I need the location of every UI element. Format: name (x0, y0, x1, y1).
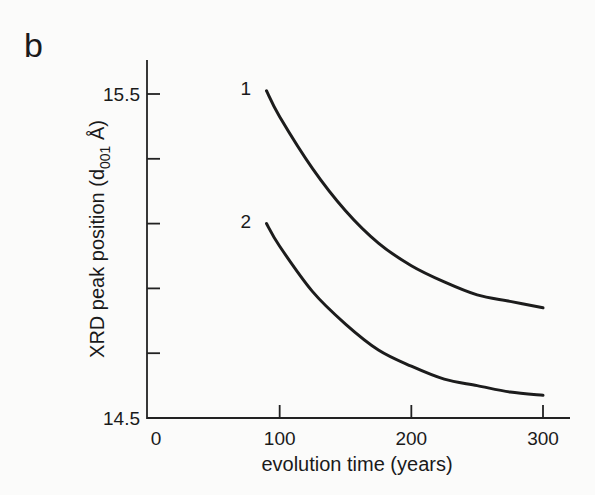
xrd-chart: 14.515.50100200300evolution time (years)… (0, 0, 595, 495)
curve-label-2: 2 (241, 211, 252, 232)
series-group (267, 91, 544, 396)
curve-2 (267, 224, 544, 396)
x-tick-label: 0 (151, 428, 162, 449)
x-tick-label: 300 (527, 428, 559, 449)
y-tick-label: 15.5 (103, 84, 140, 105)
axes (147, 60, 570, 419)
x-tick-label: 200 (395, 428, 427, 449)
curve-label-1: 1 (241, 78, 252, 99)
y-tick-label: 14.5 (103, 408, 140, 429)
x-tick-label: 100 (264, 428, 296, 449)
y-axis-title: XRD peak position (d001 Å) (86, 120, 113, 358)
labels-group: 14.515.50100200300evolution time (years)… (86, 78, 559, 475)
curve-1 (267, 91, 544, 308)
x-axis-title: evolution time (years) (261, 453, 452, 475)
